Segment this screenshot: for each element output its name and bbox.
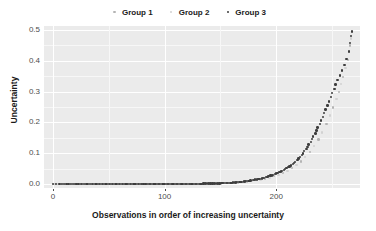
data-point — [331, 92, 333, 94]
data-point — [324, 108, 326, 110]
data-point — [350, 37, 352, 39]
data-point — [313, 145, 315, 147]
data-point — [321, 131, 323, 133]
data-point — [300, 160, 302, 162]
data-point — [52, 183, 54, 185]
data-point — [326, 104, 328, 106]
x-tick-label: 100 — [150, 192, 180, 201]
data-point — [291, 167, 293, 169]
data-point — [342, 76, 344, 78]
data-point — [351, 30, 353, 32]
data-point — [330, 96, 332, 98]
data-point — [323, 112, 325, 114]
data-point — [319, 123, 321, 125]
x-tick-label: 0 — [38, 192, 68, 201]
data-point — [312, 135, 314, 137]
data-point — [333, 88, 335, 90]
data-point — [341, 69, 343, 71]
data-point — [307, 143, 309, 145]
data-point — [311, 138, 313, 140]
data-point — [286, 170, 288, 172]
data-point — [344, 67, 346, 69]
data-point — [336, 79, 338, 81]
x-tick-label: 200 — [261, 192, 291, 201]
data-point — [348, 50, 350, 52]
data-point — [304, 156, 306, 158]
data-point — [325, 123, 327, 125]
chart-container: Group 1Group 2Group 3 Uncertainty Observ… — [0, 0, 376, 231]
data-point — [335, 98, 337, 100]
data-point — [302, 152, 304, 154]
data-point — [340, 83, 342, 85]
data-point — [320, 119, 322, 121]
data-points-layer — [44, 26, 360, 188]
data-point — [282, 172, 284, 174]
data-point — [339, 74, 341, 76]
data-point — [309, 151, 311, 153]
data-point — [349, 42, 351, 44]
data-point — [328, 100, 330, 102]
x-tick-mark — [165, 189, 166, 192]
data-point — [295, 164, 297, 166]
data-point — [317, 138, 319, 140]
data-point — [310, 141, 312, 143]
data-point — [305, 148, 307, 150]
data-point — [338, 91, 340, 93]
data-point — [329, 114, 331, 116]
data-point — [316, 126, 318, 128]
data-point — [315, 129, 317, 131]
data-point — [332, 106, 334, 108]
data-point — [349, 44, 351, 46]
x-tick-mark — [276, 189, 277, 192]
plot-panel — [44, 26, 360, 188]
data-point — [314, 132, 316, 134]
data-point — [306, 146, 308, 148]
data-point — [334, 83, 336, 85]
x-tick-mark — [53, 189, 54, 192]
data-point — [322, 116, 324, 118]
data-point — [299, 156, 301, 158]
